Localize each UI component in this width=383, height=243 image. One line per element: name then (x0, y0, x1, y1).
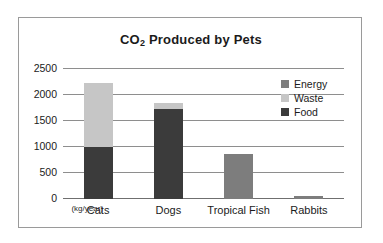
bar-segment-energy[interactable] (294, 196, 323, 199)
gridline: 2500 (63, 68, 344, 69)
bar[interactable]: Tropical Fish (224, 154, 253, 199)
chart-title: CO2 Produced by Pets (19, 32, 363, 47)
legend-item[interactable]: Energy (281, 77, 355, 91)
y-axis-tick-label: 1000 (34, 140, 57, 152)
chart-title-prefix: CO (120, 32, 140, 47)
bar-segment-energy[interactable] (224, 154, 253, 199)
legend-label: Food (294, 106, 318, 118)
legend-swatch-waste (281, 94, 289, 102)
bar[interactable]: Dogs (154, 103, 183, 199)
bar-segment-food[interactable] (84, 147, 113, 199)
chart-container: CO2 Produced by Pets 0500100015002000250… (18, 17, 362, 228)
legend-label: Waste (294, 92, 323, 104)
chart-title-suffix: Produced by Pets (145, 32, 262, 47)
y-axis-tick-label: 0 (51, 192, 57, 204)
y-axis-tick-label: 2000 (34, 88, 57, 100)
chart-title-subscript: 2 (140, 38, 145, 48)
legend-item[interactable]: Waste (281, 91, 355, 105)
y-axis-unit-label: (kg/year) (19, 204, 103, 213)
y-axis-tick-label: 2500 (34, 62, 57, 74)
legend-item[interactable]: Food (281, 105, 355, 119)
x-axis-category-label: Rabbits (264, 204, 354, 216)
bar-segment-food[interactable] (154, 109, 183, 199)
chart-legend: EnergyWasteFood (281, 77, 355, 119)
legend-label: Energy (294, 78, 327, 90)
y-axis-tick-label: 1500 (34, 114, 57, 126)
bar-segment-waste[interactable] (84, 83, 113, 147)
legend-swatch-energy (281, 80, 289, 88)
legend-swatch-food (281, 108, 289, 116)
y-axis-tick-label: 500 (39, 166, 57, 178)
bar[interactable]: Rabbits (294, 196, 323, 199)
bar[interactable]: Cats (84, 83, 113, 199)
